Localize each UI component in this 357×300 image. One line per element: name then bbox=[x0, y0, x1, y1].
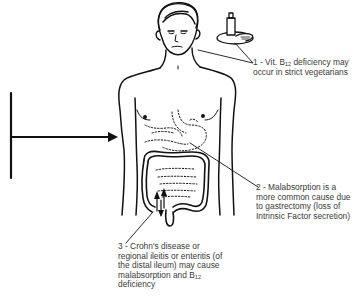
annotation-2-text: 2 - Malabsorption is a more common cause… bbox=[256, 182, 351, 221]
annotation-3-prefix: 3 - Crohn's disease or regional ileitis … bbox=[118, 241, 222, 280]
annotation-1: 1 - Vit. B12 deficiency may occur in str… bbox=[253, 58, 357, 77]
small-intestine bbox=[156, 168, 197, 197]
annotation-2: 2 - Malabsorption is a more common cause… bbox=[256, 183, 356, 221]
annotation-1-prefix: 1 - Vit. B bbox=[253, 57, 285, 67]
annotation-3: 3 - Crohn's disease or regional ileitis … bbox=[118, 242, 228, 290]
large-intestine bbox=[142, 151, 209, 226]
torso-outline bbox=[119, 67, 236, 215]
stomach-outline bbox=[145, 110, 206, 151]
plate-with-bottle-icon bbox=[217, 13, 253, 44]
annotation-3-suffix: deficiency bbox=[118, 279, 155, 289]
entry-arrow bbox=[11, 93, 118, 178]
head-icon bbox=[156, 3, 200, 69]
annotation-3-subscript: 12 bbox=[195, 274, 201, 280]
leader-lines bbox=[126, 43, 258, 243]
